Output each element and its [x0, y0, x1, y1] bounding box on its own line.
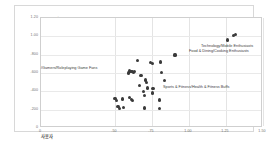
scatter-point	[139, 74, 142, 77]
y-axis-tick-labels: 1.201.00.800.600.400.2000	[17, 17, 38, 127]
point-annotation-label: Sports & Fitness/Health & Fitness Buffs	[163, 85, 229, 89]
y-axis-tick-label: 1.20	[31, 15, 38, 19]
scatter-point	[163, 79, 166, 82]
chart-page: 이용료 0 1.201.00.800.600.400.2000 Technolo…	[0, 0, 270, 147]
y-axis-tick-label: 0	[36, 125, 38, 129]
vertical-gridline	[263, 18, 264, 126]
scatter-point	[118, 107, 121, 110]
scatter-point	[151, 62, 154, 65]
point-annotation-label: Food & Dining/Cooking Enthusiasts	[189, 49, 249, 53]
scatter-point	[131, 99, 134, 102]
scatter-point	[159, 60, 162, 63]
scatter-point	[234, 33, 237, 36]
scatter-point	[226, 38, 229, 41]
scatter-point	[152, 87, 155, 90]
point-annotation-label: /Gamers/Roleplaying Game Fans	[41, 66, 97, 70]
y-axis-tick-label: .200	[31, 107, 38, 111]
x-axis-tick-labels: 0.50.751.001.251.50	[40, 129, 262, 135]
horizontal-gridline	[41, 36, 261, 37]
x-axis-tick-label: 0	[39, 129, 41, 133]
scatter-point	[151, 91, 154, 94]
point-annotation-label: Technology/Mobile Enthusiasts	[201, 44, 253, 48]
scatter-point	[146, 86, 149, 89]
chart-card: 이용료 0 1.201.00.800.600.400.2000 Technolo…	[14, 5, 254, 132]
y-axis-tick-label: .600	[31, 70, 38, 74]
scatter-point	[136, 59, 139, 62]
scatter-point	[143, 106, 146, 109]
plot-area: Technology/Mobile EnthusiastsFood & Dini…	[40, 17, 262, 127]
scatter-point	[138, 84, 141, 87]
x-axis-tick-label: .75	[148, 129, 153, 133]
x-axis-tick-label: 1.00	[184, 129, 191, 133]
x-axis-tick-label: 1.25	[221, 129, 228, 133]
y-axis-tick-label: .800	[31, 52, 38, 56]
y-axis-tick-label: .400	[31, 88, 38, 92]
x-axis-title: 사용자	[41, 134, 53, 139]
horizontal-gridline	[41, 55, 261, 56]
scatter-point	[160, 71, 163, 74]
horizontal-gridline	[41, 73, 261, 74]
x-axis-tick-label: .50	[111, 129, 116, 133]
scatter-point	[158, 107, 161, 110]
scatter-point	[145, 81, 148, 84]
scatter-point	[121, 97, 124, 100]
x-axis-tick-label: 1.50	[258, 129, 265, 133]
scatter-point	[127, 71, 130, 74]
scatter-point	[158, 98, 161, 101]
scatter-point	[173, 53, 176, 56]
scatter-point	[142, 90, 145, 93]
scatter-point	[115, 99, 118, 102]
horizontal-gridline	[41, 110, 261, 111]
y-axis-tick-label: 1.00	[31, 33, 38, 37]
scatter-point	[143, 94, 146, 97]
